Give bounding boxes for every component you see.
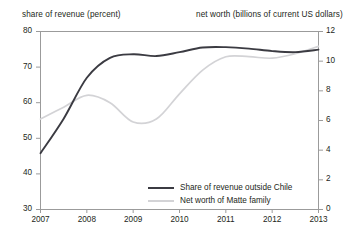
x-axis-tick-label: 2012 [252, 215, 292, 224]
left-axis-tick-label: 60 [12, 97, 32, 106]
left-axis-tick-label: 40 [12, 168, 32, 177]
legend-item: Net worth of Matte family [148, 194, 318, 207]
x-axis-tick-label: 2007 [21, 215, 61, 224]
data-series [41, 46, 319, 153]
x-axis-tick-label: 2011 [206, 215, 246, 224]
left-axis-tick-label: 70 [12, 62, 32, 71]
right-axis-tick-label: 8 [326, 85, 346, 94]
left-axis-tick-label: 80 [12, 26, 32, 35]
left-axis-tick-label: 30 [12, 204, 32, 213]
x-axis-tick-label: 2008 [67, 215, 107, 224]
x-axis-tick-label: 2010 [160, 215, 200, 224]
series-line-share-of-revenue [41, 47, 319, 153]
chart-legend: Share of revenue outside ChileNet worth … [148, 181, 318, 207]
right-axis-tick-label: 0 [326, 204, 346, 213]
right-axis-tick-label: 4 [326, 145, 346, 154]
x-axis-tick-label: 2009 [113, 215, 153, 224]
legend-label: Net worth of Matte family [180, 196, 271, 205]
plot-area [0, 0, 353, 245]
legend-swatch-icon [148, 200, 174, 202]
right-axis-tick-label: 6 [326, 115, 346, 124]
right-axis-tick-label: 2 [326, 174, 346, 183]
legend-label: Share of revenue outside Chile [180, 183, 292, 192]
legend-item: Share of revenue outside Chile [148, 181, 318, 194]
left-axis-tick-label: 50 [12, 133, 32, 142]
right-axis-tick-label: 12 [326, 26, 346, 35]
chart-container: share of revenue (percent) net worth (bi… [0, 0, 353, 245]
x-axis-tick-label: 2013 [299, 215, 339, 224]
legend-swatch-icon [148, 187, 174, 189]
right-axis-tick-label: 10 [326, 56, 346, 65]
